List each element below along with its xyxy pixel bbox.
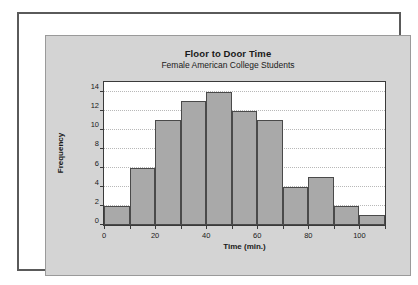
histogram-bar	[308, 177, 334, 225]
x-tick-mark	[334, 225, 335, 229]
x-tick-mark	[385, 225, 386, 229]
histogram-bar	[334, 206, 360, 225]
x-tick-mark	[130, 225, 131, 229]
x-tick-mark	[206, 225, 207, 229]
histogram-bars	[104, 82, 385, 225]
y-tick-label: 8	[95, 139, 99, 148]
y-tick-label: 10	[91, 120, 99, 129]
x-tick-label: 0	[102, 231, 106, 240]
x-tick-mark	[181, 225, 182, 229]
y-tick-label: 0	[95, 215, 99, 224]
x-tick-mark	[155, 225, 156, 229]
y-axis-label: Frequency	[56, 133, 65, 173]
x-tick-label: 100	[353, 231, 366, 240]
histogram-bar	[155, 120, 181, 225]
x-tick-label: 20	[151, 231, 159, 240]
y-tick-label: 2	[95, 196, 99, 205]
y-tick-label: 6	[95, 158, 99, 167]
histogram-bar	[104, 206, 130, 225]
x-tick-mark	[104, 225, 105, 229]
histogram-bar	[130, 168, 156, 225]
x-tick-mark	[359, 225, 360, 229]
x-axis-label: Time (min.)	[103, 242, 386, 251]
x-tick-mark	[308, 225, 309, 229]
y-tick-label: 14	[91, 82, 99, 91]
x-tick-label: 60	[253, 231, 261, 240]
y-tick-label: 12	[91, 101, 99, 110]
y-tick-label: 4	[95, 177, 99, 186]
plot-area: 02468101214 020406080100	[103, 81, 386, 226]
histogram-bar	[232, 111, 258, 225]
histogram-bar	[206, 92, 232, 225]
x-tick-label: 40	[202, 231, 210, 240]
page-background: Floor to Door Time Female American Colle…	[0, 0, 418, 285]
histogram-bar	[283, 187, 309, 225]
x-tick-mark	[283, 225, 284, 229]
histogram-bar	[359, 215, 385, 225]
chart-panel: Floor to Door Time Female American Colle…	[45, 35, 411, 276]
histogram-bar	[181, 101, 207, 225]
x-tick-mark	[257, 225, 258, 229]
x-tick-label: 80	[304, 231, 312, 240]
x-tick-mark	[232, 225, 233, 229]
outer-frame: Floor to Door Time Female American Colle…	[17, 12, 401, 271]
chart-title: Floor to Door Time	[46, 48, 410, 59]
histogram-bar	[257, 120, 283, 225]
chart-area: Floor to Door Time Female American Colle…	[46, 36, 410, 275]
chart-subtitle: Female American College Students	[46, 60, 410, 70]
